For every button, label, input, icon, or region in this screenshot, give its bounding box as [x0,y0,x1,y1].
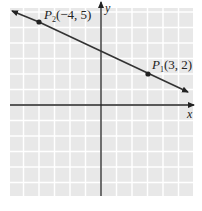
x-axis-label: x [186,107,193,121]
coordinate-plot: P2(−4, 5) P1(3, 2) x y [0,0,202,211]
point-p2 [36,19,41,24]
p2-label: P2(−4, 5) [43,7,91,24]
p1-label: P1(3, 2) [151,57,192,74]
y-axis-label: y [104,1,111,15]
point-p1 [145,71,150,76]
